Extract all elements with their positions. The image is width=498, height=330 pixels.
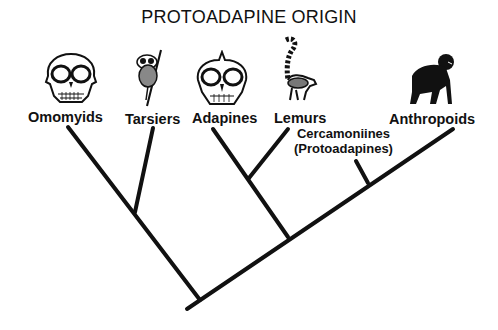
phylogenetic-tree bbox=[0, 0, 498, 330]
branch-lemurs bbox=[249, 129, 288, 178]
branch-cercamoniines bbox=[356, 161, 368, 183]
branch-anthropoids-trunk bbox=[187, 129, 453, 309]
branch-tarsiers bbox=[135, 128, 153, 212]
